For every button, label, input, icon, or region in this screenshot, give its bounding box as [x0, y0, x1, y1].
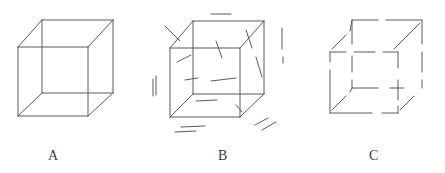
cube-c-label: C — [369, 149, 378, 163]
cube-a-label: A — [48, 149, 58, 163]
cube-b-label: B — [218, 149, 227, 163]
figure-canvas: A B C — [0, 0, 445, 173]
